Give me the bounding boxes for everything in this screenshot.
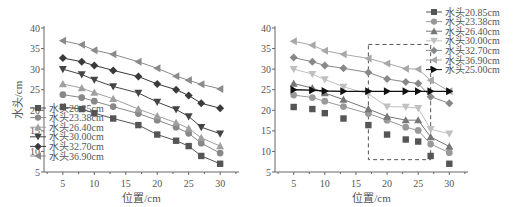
data-point-marker bbox=[290, 80, 298, 87]
x-tick-label: 5 bbox=[291, 178, 296, 189]
legend-label: 水头25.00cm bbox=[445, 64, 500, 75]
x-tick-label: 10 bbox=[320, 178, 330, 189]
data-point-marker bbox=[59, 80, 67, 87]
data-point-marker bbox=[172, 106, 180, 113]
data-point-marker bbox=[185, 91, 193, 99]
data-point-marker bbox=[216, 85, 223, 93]
data-point-marker bbox=[216, 104, 224, 112]
legend-marker-icon bbox=[431, 66, 438, 74]
data-point-marker bbox=[415, 138, 421, 144]
data-point-marker bbox=[364, 105, 372, 112]
data-point-marker bbox=[309, 94, 316, 101]
data-point-marker bbox=[78, 41, 85, 49]
y-tick-label: 25 bbox=[30, 84, 40, 95]
data-point-marker bbox=[383, 112, 391, 119]
data-point-marker bbox=[78, 58, 86, 66]
data-point-marker bbox=[153, 112, 161, 119]
legend: 水头20.85cm水头23.38cm水头26.40cm水头30.00cm水头32… bbox=[426, 7, 500, 76]
data-point-marker bbox=[403, 136, 409, 142]
data-point-marker bbox=[216, 131, 224, 138]
data-point-marker bbox=[322, 110, 328, 116]
data-point-marker bbox=[185, 124, 193, 131]
data-point-marker bbox=[197, 124, 205, 131]
data-point-marker bbox=[217, 150, 224, 157]
data-point-marker bbox=[384, 87, 391, 95]
data-point-marker bbox=[427, 141, 434, 148]
data-point-marker bbox=[383, 59, 390, 67]
data-point-marker bbox=[110, 115, 116, 121]
data-point-marker bbox=[321, 76, 329, 83]
y-axis-label: 水头/cm bbox=[12, 80, 24, 119]
x-tick-label: 20 bbox=[382, 178, 392, 189]
legend-item: 水头25.00cm bbox=[426, 64, 500, 75]
data-point-marker bbox=[445, 99, 453, 107]
legend-label: 水头36.90cm bbox=[49, 151, 104, 162]
x-axis-label: 位置/cm bbox=[122, 191, 161, 204]
data-point-marker bbox=[340, 115, 346, 121]
data-point-marker bbox=[134, 105, 142, 112]
data-point-marker bbox=[321, 61, 329, 69]
data-point-marker bbox=[78, 71, 86, 78]
series-line bbox=[294, 41, 450, 91]
axes: 51015202530354051015202530位置/cm水头/cm bbox=[12, 23, 239, 205]
data-point-marker bbox=[414, 65, 421, 73]
data-point-marker bbox=[110, 103, 117, 110]
x-tick-label: 5 bbox=[60, 178, 65, 189]
data-point-marker bbox=[59, 54, 67, 62]
data-point-marker bbox=[415, 127, 422, 134]
data-point-marker bbox=[154, 131, 160, 137]
y-tick-label: 30 bbox=[261, 64, 271, 75]
data-point-marker bbox=[59, 37, 66, 45]
x-tick-label: 15 bbox=[351, 178, 361, 189]
y-tick-label: 20 bbox=[261, 105, 271, 116]
data-point-marker bbox=[197, 99, 205, 107]
data-point-marker bbox=[198, 153, 204, 159]
data-point-marker bbox=[308, 41, 315, 49]
data-point-marker bbox=[172, 72, 179, 80]
data-point-marker bbox=[308, 71, 316, 78]
chart-left-canvas: 51015202530354051015202530位置/cm水头/cm水头20… bbox=[0, 0, 260, 207]
legend-marker-icon bbox=[431, 9, 437, 15]
y-tick-label: 40 bbox=[30, 23, 40, 34]
legend-marker-icon bbox=[430, 56, 437, 64]
legend-marker-icon bbox=[430, 47, 438, 55]
data-point-marker bbox=[427, 153, 433, 159]
data-point-marker bbox=[415, 87, 422, 95]
legend-marker-icon bbox=[35, 114, 41, 120]
data-point-marker bbox=[197, 134, 205, 141]
y-tick-label: 35 bbox=[261, 43, 271, 54]
data-point-marker bbox=[173, 138, 179, 144]
data-point-marker bbox=[365, 122, 371, 128]
data-point-marker bbox=[153, 99, 161, 106]
y-tick-label: 25 bbox=[261, 84, 271, 95]
data-point-marker bbox=[60, 91, 67, 98]
data-point-marker bbox=[109, 50, 116, 58]
x-tick-label: 30 bbox=[444, 178, 454, 189]
x-tick-label: 30 bbox=[215, 178, 225, 189]
data-point-marker bbox=[364, 68, 372, 76]
data-point-marker bbox=[403, 87, 410, 95]
data-point-marker bbox=[445, 131, 453, 138]
data-point-marker bbox=[217, 161, 223, 167]
data-point-marker bbox=[134, 73, 142, 81]
x-tick-label: 25 bbox=[413, 178, 423, 189]
data-point-marker bbox=[172, 119, 180, 126]
x-tick-label: 20 bbox=[152, 178, 162, 189]
y-tick-label: 10 bbox=[261, 146, 271, 157]
data-point-marker bbox=[90, 89, 98, 96]
data-point-marker bbox=[78, 94, 85, 101]
y-tick-label: 15 bbox=[261, 125, 271, 136]
legend-item: 水头36.90cm bbox=[30, 151, 104, 162]
data-point-marker bbox=[109, 66, 117, 74]
data-point-marker bbox=[90, 46, 97, 54]
data-point-marker bbox=[197, 80, 204, 88]
data-point-marker bbox=[414, 105, 422, 112]
data-point-marker bbox=[402, 65, 409, 73]
y-tick-label: 30 bbox=[30, 64, 40, 75]
data-point-marker bbox=[90, 77, 98, 84]
y-tick-label: 5 bbox=[266, 167, 271, 178]
x-tick-label: 15 bbox=[121, 178, 131, 189]
data-point-marker bbox=[153, 64, 160, 72]
data-point-marker bbox=[90, 61, 98, 69]
chart-right-canvas: 51015202530354051015202530位置/cm水头/cm水头20… bbox=[260, 0, 519, 207]
